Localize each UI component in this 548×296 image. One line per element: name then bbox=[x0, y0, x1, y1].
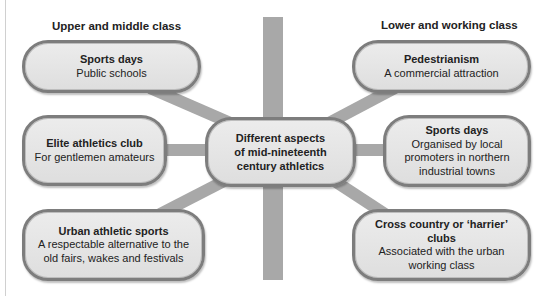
node-title: Sports days bbox=[80, 53, 143, 67]
node-title: Pedestrianism bbox=[404, 53, 479, 67]
node-title: Elite athletics club bbox=[46, 137, 143, 151]
node-pedestrianism: Pedestrianism A commercial attraction bbox=[352, 40, 531, 93]
node-sports-days-northern-towns: Sports days Organised by local promoters… bbox=[383, 115, 531, 187]
node-subtitle: For gentlemen amateurs bbox=[35, 151, 155, 165]
node-subtitle: Associated with the urban working class bbox=[379, 245, 505, 272]
node-title: Cross country or ‘harrier’ clubs bbox=[363, 218, 520, 245]
central-node-label: Different aspects of mid-nineteenth cent… bbox=[234, 131, 326, 173]
node-cross-country-harrier-clubs: Cross country or ‘harrier’ clubs Associa… bbox=[352, 209, 531, 281]
node-subtitle: A commercial attraction bbox=[384, 67, 498, 81]
node-title: Sports days bbox=[426, 124, 489, 138]
node-subtitle: Organised by local promoters in northern… bbox=[404, 138, 509, 179]
left-group-heading: Upper and middle class bbox=[52, 20, 181, 32]
node-subtitle: Public schools bbox=[76, 67, 146, 81]
node-title: Urban athletic sports bbox=[58, 225, 168, 239]
node-urban-athletic-sports: Urban athletic sports A respectable alte… bbox=[22, 209, 205, 281]
central-node: Different aspects of mid-nineteenth cent… bbox=[205, 117, 356, 187]
node-subtitle: A respectable alternative to the old fai… bbox=[38, 238, 189, 265]
right-group-heading: Lower and working class bbox=[381, 19, 518, 31]
node-elite-athletics-club: Elite athletics club For gentlemen amate… bbox=[22, 115, 167, 186]
node-sports-days-public-schools: Sports days Public schools bbox=[22, 40, 201, 93]
